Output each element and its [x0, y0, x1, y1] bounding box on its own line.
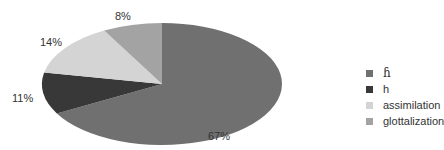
slice-label-assimilation: 14% — [40, 36, 62, 48]
legend-label: glottalization — [383, 114, 444, 129]
legend-label: ɦ — [383, 66, 391, 81]
legend-label: assimilation — [383, 98, 440, 113]
slice-label-h: 11% — [12, 92, 33, 104]
legend-item-h: h — [366, 82, 444, 97]
slice-label-glottalization: 8% — [115, 10, 131, 22]
legend-label: h — [383, 82, 389, 97]
legend-swatch-icon — [366, 86, 373, 93]
legend-swatch-icon — [366, 102, 373, 109]
legend-item-h-breathy: ɦ — [366, 66, 444, 81]
slice-label-h-breathy: 67% — [208, 130, 230, 142]
legend-swatch-icon — [366, 118, 373, 125]
legend-item-glottalization: glottalization — [366, 114, 444, 129]
legend-item-assimilation: assimilation — [366, 98, 444, 113]
pie-slices — [42, 23, 282, 145]
chart-legend: ɦ h assimilation glottalization — [366, 66, 444, 130]
legend-swatch-icon — [366, 70, 373, 77]
